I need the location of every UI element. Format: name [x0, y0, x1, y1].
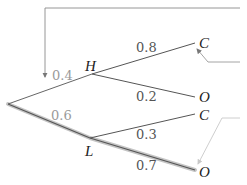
leaf-h-c-label: C [199, 35, 210, 51]
node-l-label: L [84, 143, 93, 159]
probability-tree-diagram: 0.4 0.6 0.8 0.2 0.3 0.7 H L C O C O [0, 0, 247, 185]
highlighted-path [8, 104, 195, 170]
prob-l-c: 0.3 [136, 127, 157, 142]
leaf-h-o-label: O [199, 89, 210, 105]
leaf-l-o-label: O [199, 164, 210, 180]
prob-h-o: 0.2 [136, 89, 157, 104]
prob-h-c: 0.8 [136, 40, 157, 55]
branch-root-h [8, 74, 92, 104]
node-h-label: H [84, 58, 97, 74]
prob-l-o: 0.7 [136, 158, 157, 173]
leaf-l-c-label: C [199, 107, 210, 123]
prob-root-h: 0.4 [52, 68, 73, 83]
branch-root-l [8, 104, 90, 138]
prob-root-l: 0.6 [51, 108, 72, 123]
pointer-arrow-bottom-o [198, 118, 240, 164]
